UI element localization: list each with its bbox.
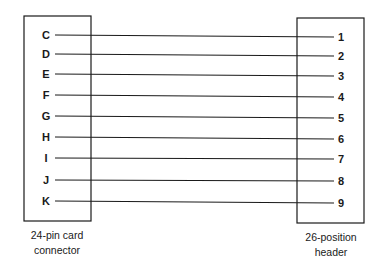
wire-d-2 [55, 54, 334, 56]
wire-c-1 [55, 35, 334, 37]
left-caption-line2: connector [14, 243, 100, 258]
left-pin-label: G [42, 110, 51, 122]
right-pin-label: 1 [338, 31, 344, 43]
right-pin-label: 3 [338, 70, 344, 82]
left-pin-label: J [43, 174, 49, 186]
wire-h-6 [55, 137, 334, 139]
right-connector-caption: 26-position header [288, 230, 374, 260]
left-pin-label: E [42, 68, 49, 80]
wires [55, 35, 334, 203]
left-pin-label: D [42, 48, 50, 60]
right-caption-line2: header [288, 245, 374, 260]
wire-f-4 [55, 95, 334, 97]
left-pin-label: F [43, 89, 50, 101]
left-connector-caption: 24-pin card connector [14, 228, 100, 258]
right-connector-box [297, 18, 364, 223]
wire-i-7 [55, 158, 334, 159]
wire-e-3 [55, 74, 334, 76]
right-caption-line1: 26-position [288, 230, 374, 245]
wire-j-8 [55, 180, 334, 181]
left-pin-label: K [42, 195, 50, 207]
wire-g-5 [55, 116, 334, 118]
wire-k-9 [55, 201, 334, 203]
left-pin-label: I [44, 152, 47, 164]
left-pin-label: H [42, 131, 50, 143]
right-pin-label: 8 [338, 175, 344, 187]
right-pin-label: 4 [338, 91, 345, 103]
left-caption-line1: 24-pin card [14, 228, 100, 243]
left-connector-box [24, 16, 91, 221]
right-pin-label: 5 [338, 112, 344, 124]
right-pin-label: 6 [338, 133, 344, 145]
left-pin-label: C [42, 29, 50, 41]
right-pin-label: 7 [338, 153, 344, 165]
right-pin-label: 2 [338, 50, 344, 62]
right-pin-label: 9 [338, 197, 344, 209]
